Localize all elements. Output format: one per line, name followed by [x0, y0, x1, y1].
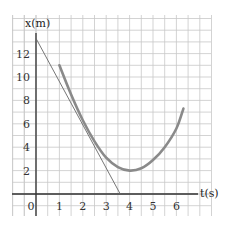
x-tick-label: 3 — [103, 200, 110, 213]
y-axis-label: x(m) — [25, 17, 50, 30]
y-tick-label: 4 — [23, 141, 30, 154]
y-tick-label: 10 — [16, 71, 30, 84]
x-axis-label: t(s) — [200, 187, 219, 200]
x-tick-label: 0 — [28, 200, 35, 213]
chart-svg: x(m)t(s)246810120123456 — [0, 0, 232, 228]
position-time-graph: x(m)t(s)246810120123456 — [0, 0, 232, 228]
x-tick-label: 4 — [126, 200, 133, 213]
y-tick-label: 8 — [23, 94, 30, 107]
x-tick-label: 5 — [150, 200, 157, 213]
y-tick-label: 2 — [23, 165, 30, 178]
y-tick-label: 12 — [16, 48, 30, 61]
x-tick-label: 1 — [56, 200, 63, 213]
x-tick-label: 2 — [79, 200, 86, 213]
y-tick-label: 6 — [23, 118, 30, 131]
x-tick-label: 6 — [173, 200, 180, 213]
